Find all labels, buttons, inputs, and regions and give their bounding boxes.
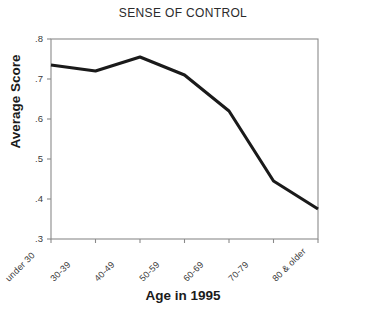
y-tick-label: .3 (17, 234, 43, 244)
y-tick-label: .7 (17, 74, 43, 84)
chart-figure: SENSE OF CONTROL Average Score Age in 19… (0, 0, 366, 315)
y-tick-label: .5 (17, 154, 43, 164)
y-tick-label: .8 (17, 34, 43, 44)
y-tick-label: .4 (17, 194, 43, 204)
y-tick-label: .6 (17, 114, 43, 124)
plot-area (0, 0, 366, 315)
